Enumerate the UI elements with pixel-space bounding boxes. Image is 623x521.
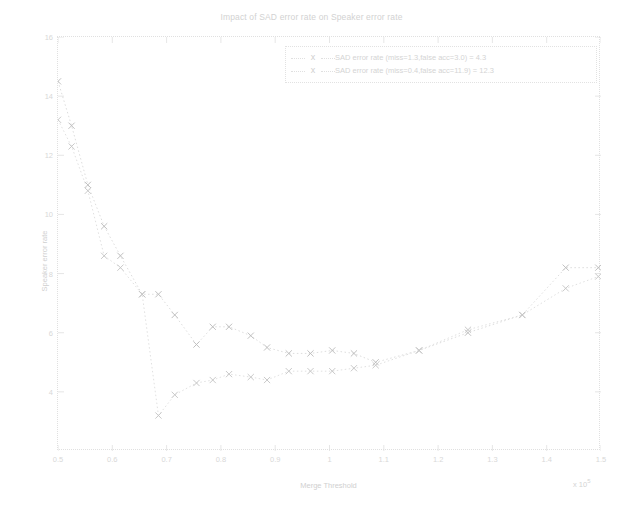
x-axis-tick-label: 0.7 <box>161 455 171 464</box>
data-point-marker <box>172 312 178 318</box>
data-point-marker <box>519 312 525 318</box>
x-axis-tick-label: 0.9 <box>270 455 280 464</box>
y-axis-tick-label: 12 <box>45 151 53 160</box>
data-point-marker <box>595 265 601 271</box>
data-point-marker <box>307 350 313 356</box>
data-point-marker <box>286 368 292 374</box>
data-series <box>58 78 601 365</box>
data-point-marker <box>264 377 270 383</box>
x-axis-exponent-base: x 10 <box>573 480 587 489</box>
x-axis-label: Merge Threshold <box>57 481 600 490</box>
x-axis-tick-label: 1.1 <box>379 455 389 464</box>
x-axis-tick-label: 1.4 <box>541 455 551 464</box>
data-point-marker <box>58 78 61 84</box>
chart-title: Impact of SAD error rate on Speaker erro… <box>0 12 623 22</box>
y-axis-label: Speaker error rate <box>40 230 49 291</box>
data-point-marker <box>210 377 216 383</box>
data-point-marker <box>248 333 254 339</box>
data-point-marker <box>85 188 91 194</box>
legend-item-label: SAD error rate (miss=0.4,false acc=11.9)… <box>335 66 494 75</box>
data-point-marker <box>307 368 313 374</box>
data-point-marker <box>465 330 471 336</box>
legend-marker-icon: x <box>291 66 335 75</box>
legend-item: x SAD error rate (miss=1.3,false acc=3.0… <box>291 51 591 64</box>
y-axis-tick-label: 4 <box>49 387 53 396</box>
data-point-marker <box>101 223 107 229</box>
data-point-marker <box>85 182 91 188</box>
data-point-marker <box>172 392 178 398</box>
chart-figure: Impact of SAD error rate on Speaker erro… <box>0 0 623 521</box>
y-axis-tick-label: 16 <box>45 33 53 42</box>
x-axis-tick-label: 0.5 <box>53 455 63 464</box>
data-point-marker <box>465 327 471 333</box>
data-point-marker <box>155 412 161 418</box>
x-axis-exponent-power: 5 <box>587 478 590 484</box>
data-point-marker <box>193 341 199 347</box>
series-line <box>58 81 598 362</box>
data-point-marker <box>264 344 270 350</box>
data-point-marker <box>193 380 199 386</box>
data-point-marker <box>416 347 422 353</box>
data-point-marker <box>248 374 254 380</box>
data-point-marker <box>595 273 601 279</box>
data-point-marker <box>68 143 74 149</box>
y-axis-tick-label: 10 <box>45 210 53 219</box>
data-point-marker <box>117 265 123 271</box>
data-point-marker <box>351 350 357 356</box>
x-axis-tick-label: 0.6 <box>107 455 117 464</box>
x-axis-tick-label: 0.8 <box>216 455 226 464</box>
y-axis-tick-label: 8 <box>49 269 53 278</box>
plot-area: 161412108640.50.60.70.80.911.11.21.31.41… <box>57 36 600 450</box>
legend-item-label: SAD error rate (miss=1.3,false acc=3.0) … <box>335 53 486 62</box>
x-axis-tick-label: 1.2 <box>433 455 443 464</box>
data-point-marker <box>563 285 569 291</box>
legend-marker-icon: x <box>291 53 335 62</box>
x-axis-tick-label: 1.3 <box>487 455 497 464</box>
data-point-marker <box>210 324 216 330</box>
data-series <box>58 117 601 419</box>
data-point-marker <box>68 123 74 129</box>
chart-legend: x SAD error rate (miss=1.3,false acc=3.0… <box>285 46 597 83</box>
data-point-marker <box>286 350 292 356</box>
data-point-marker <box>101 253 107 259</box>
data-point-marker <box>351 365 357 371</box>
y-axis-tick-label: 6 <box>49 328 53 337</box>
data-point-marker <box>117 253 123 259</box>
series-line <box>58 120 598 416</box>
data-point-marker <box>58 117 61 123</box>
x-axis-exponent: x 105 <box>573 478 591 489</box>
legend-item: x SAD error rate (miss=0.4,false acc=11.… <box>291 64 591 77</box>
y-axis-tick-label: 14 <box>45 92 53 101</box>
data-point-marker <box>226 324 232 330</box>
x-axis-tick-label: 1.5 <box>596 455 606 464</box>
x-axis-tick-label: 1 <box>327 455 331 464</box>
plot-canvas <box>58 37 601 451</box>
